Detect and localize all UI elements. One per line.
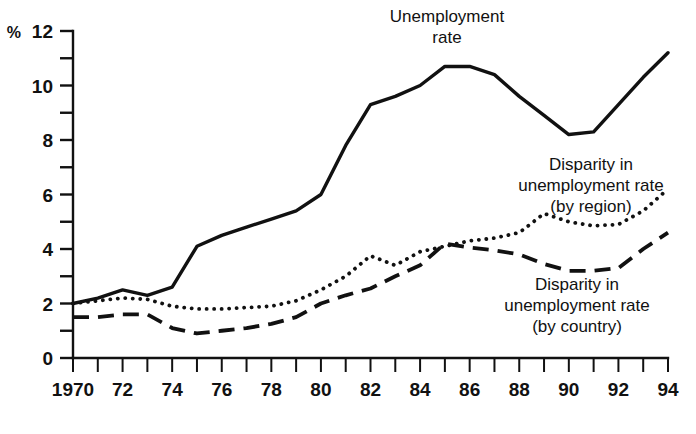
line-chart: 024681012% 1970727476788082848688909294 … (0, 0, 696, 434)
x-tick-label-1980: 80 (310, 379, 331, 400)
x-tick-label-1986: 86 (459, 379, 480, 400)
x-tick-label-1988: 88 (509, 379, 530, 400)
y-tick-label-0: 0 (42, 348, 53, 369)
x-tick-label-1972: 72 (112, 379, 133, 400)
y-tick-label-6: 6 (42, 185, 53, 206)
y-tick-label-12: 12 (32, 21, 53, 42)
x-tick-label-1970: 1970 (52, 379, 94, 400)
x-tick-label-1984: 84 (410, 379, 432, 400)
y-tick-label-4: 4 (42, 239, 53, 260)
chart-background (0, 0, 696, 434)
x-tick-label-1982: 82 (360, 379, 381, 400)
y-tick-label-2: 2 (42, 294, 53, 315)
x-tick-label-1976: 76 (211, 379, 232, 400)
x-tick-label-1990: 90 (558, 379, 579, 400)
x-tick-label-1992: 92 (608, 379, 629, 400)
x-tick-label-1974: 74 (162, 379, 184, 400)
y-tick-label-10: 10 (32, 76, 53, 97)
y-axis-unit-label: % (7, 24, 21, 41)
y-tick-label-8: 8 (42, 130, 53, 151)
x-tick-label-1994: 94 (657, 379, 679, 400)
x-tick-label-1978: 78 (261, 379, 282, 400)
chart-container: 024681012% 1970727476788082848688909294 … (0, 0, 696, 434)
